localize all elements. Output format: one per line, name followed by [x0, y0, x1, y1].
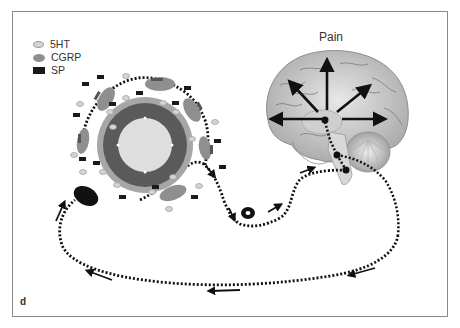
pathway-arrows: [56, 166, 375, 291]
legend: 5HT CGRP SP: [33, 38, 81, 77]
legend-item-5ht: 5HT: [33, 38, 81, 51]
legend-item-sp: SP: [33, 64, 81, 77]
arrow-icon: [268, 205, 280, 212]
trigeminal-ganglion: [241, 207, 255, 219]
panel-label: d: [20, 296, 26, 307]
black-nerve-terminal: [70, 182, 101, 210]
legend-label: SP: [51, 64, 65, 77]
5ht-swatch-icon: [33, 41, 44, 48]
arrow-icon: [88, 271, 112, 280]
arrow-icon: [56, 203, 64, 221]
arrow-icon: [206, 166, 214, 176]
arrow-icon: [300, 168, 313, 173]
brain-illustration: [267, 51, 409, 185]
arrow-icon: [210, 290, 240, 291]
legend-label: CGRP: [51, 51, 81, 64]
legend-item-cgrp: CGRP: [33, 51, 81, 64]
sp-swatch-icon: [33, 67, 45, 74]
pain-label: Pain: [319, 30, 343, 44]
legend-label: 5HT: [50, 38, 70, 51]
cgrp-swatch-icon: [33, 54, 45, 62]
